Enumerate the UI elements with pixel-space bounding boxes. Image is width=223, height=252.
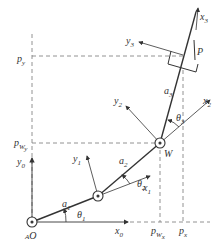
frame-3 <box>139 8 198 55</box>
svg-text:θ1: θ1 <box>77 209 85 223</box>
svg-text:pWx: pWx <box>150 225 166 241</box>
svg-text:pWy: pWy <box>13 137 28 153</box>
svg-text:px: px <box>178 225 188 239</box>
svg-text:x1: x1 <box>142 182 151 196</box>
frame-2 <box>126 100 210 143</box>
svg-text:py: py <box>16 53 26 67</box>
svg-text:x2: x2 <box>202 95 211 109</box>
svg-text:θ3: θ3 <box>176 112 185 126</box>
svg-text:x0: x0 <box>114 225 123 239</box>
links <box>32 12 196 222</box>
svg-text:P: P <box>196 46 203 57</box>
svg-text:a3: a3 <box>164 85 173 99</box>
svg-text:y3: y3 <box>125 35 134 49</box>
svg-text:x3: x3 <box>199 11 208 25</box>
robot-arm-diagram: py pWy y0 AO a1 θ1 x0 y1 a2 θ2 x1 W y2 x… <box>0 0 223 252</box>
svg-text:y0: y0 <box>16 156 25 170</box>
link-a3 <box>160 12 196 143</box>
svg-text:y1: y1 <box>72 153 81 167</box>
svg-text:y2: y2 <box>113 95 122 109</box>
labels: py pWy y0 AO a1 θ1 x0 y1 a2 θ2 x1 W y2 x… <box>13 11 211 241</box>
svg-text:W: W <box>164 148 174 159</box>
svg-text:AO: AO <box>24 230 37 241</box>
svg-text:a2: a2 <box>119 155 128 169</box>
guide-lines <box>32 34 210 222</box>
